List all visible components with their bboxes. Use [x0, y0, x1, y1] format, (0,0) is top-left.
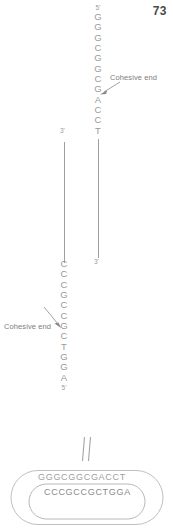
plasmid-inner-sequence: CCCGCCGCTGGA: [44, 487, 131, 497]
cohesive-end-bottom-arrow-icon: [44, 307, 64, 329]
ligation-connector-icon: [80, 437, 96, 463]
bottom-strand-three-prime-label: 3': [60, 127, 65, 134]
page-number: 73: [153, 4, 167, 18]
right-strand-backbone-line: [98, 139, 99, 258]
plasmid-outer-sequence: GGGCGGCGACCT: [38, 472, 126, 482]
cohesive-end-top-arrow-icon: [100, 82, 122, 96]
figure-page: 73 5' G G G C G G C G A C C T Cohesive e…: [0, 0, 173, 529]
top-strand-three-prime-label: 3': [94, 258, 99, 265]
left-strand-backbone-line: [64, 142, 65, 263]
circular-plasmid-diagram: GGGCGGCGACCT CCCGCCGCTGGA: [8, 466, 166, 528]
top-strand-base: T: [89, 126, 107, 136]
bottom-strand-five-prime-label: 5': [55, 383, 73, 392]
bottom-strand-base: A: [55, 373, 73, 383]
top-strand-sequence: 5' G G G C G G C G A C C T: [89, 3, 107, 136]
cohesive-end-top-label: Cohesive end: [110, 73, 157, 82]
